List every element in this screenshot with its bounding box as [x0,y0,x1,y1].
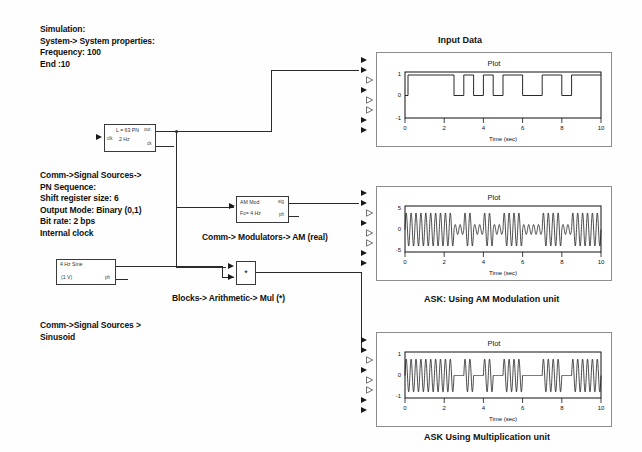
multiplier-symbol: * [237,262,255,284]
diagram-canvas: Simulation: System-> System properties: … [0,0,642,452]
wire-pn-to-mul [176,267,226,268]
wire-sine-out [116,266,222,267]
wire-pn-ck-stub [156,146,174,147]
pn-out-port-label: out [144,127,150,132]
block-am-modulator[interactable]: AM Mod Fc= 4 Hz sig ph [236,196,289,223]
wire-pn-up [271,70,272,132]
scope1-plot-title: Plot [377,59,611,68]
scope3-plot-title: Plot [377,339,611,348]
svg-text:6: 6 [521,125,525,131]
wire-mul-out [256,272,361,273]
svg-text:2: 2 [443,405,447,411]
scope-ask-am[interactable]: Plot 5 0 -5 0 2 4 6 8 10 Time (sec) [376,186,612,281]
scope3-port-4-icon [361,367,367,373]
pn-clk-input-arrow-icon [96,134,102,140]
svg-text:10: 10 [598,405,605,411]
scope1-port-5-icon [361,97,366,103]
scope1-port-7-icon [361,117,367,123]
svg-text:10: 10 [598,259,605,265]
scope1-port-1-icon [361,57,367,63]
block-pn-sequence[interactable]: L = 63 PN 2 Hz clk out ck [104,124,156,152]
svg-text:4: 4 [482,405,486,411]
svg-text:8: 8 [560,259,564,265]
scope3-port-7-icon [361,397,367,403]
scope3-caption: ASK Using Multiplication unit [424,432,550,442]
scope-ask-multiplication[interactable]: Plot 1 0 -1 0 2 4 6 8 10 Time (sec) [376,332,612,427]
svg-text:0: 0 [398,92,402,98]
svg-text:0: 0 [403,405,407,411]
block-sine-source[interactable]: 4 Hz Sine (1 V) ph [56,259,116,285]
block-multiplier[interactable]: * [236,261,256,285]
svg-text:2: 2 [443,125,447,131]
scope1-port-8-icon [361,127,367,133]
scope1-port-6-icon [361,107,366,113]
svg-text:1: 1 [398,351,402,357]
scope2-plot-title: Plot [377,193,611,202]
wire-am-ph-stub [289,216,299,217]
pn-block-subtitle: 2 Hz [119,136,130,142]
svg-text:5: 5 [398,205,402,211]
scope3-port-8-icon [361,407,367,413]
scope2-port-1-icon [361,190,367,196]
note-simulation-settings: Simulation: System-> System properties: … [40,24,155,70]
svg-text:Time (sec): Time (sec) [489,270,517,276]
am-input-arrow-icon [229,203,235,209]
scope1-port-3-icon [361,77,366,83]
svg-text:-1: -1 [396,115,402,121]
scope2-port-7-icon [361,250,367,256]
svg-text:8: 8 [560,405,564,411]
scope2-port-6-icon [361,240,366,246]
note-multiplier: Blocks-> Arithmetic-> Mul (*) [172,293,285,305]
svg-text:Time (sec): Time (sec) [489,416,517,422]
svg-text:-1: -1 [396,393,402,399]
scope2-port-2-icon [361,200,367,206]
svg-text:Time (sec): Time (sec) [489,136,517,142]
am-sig-port-label: sig [278,199,284,204]
svg-text:4: 4 [482,125,486,131]
wire-sine-down [222,266,223,277]
scope2-port-3-icon [361,210,366,216]
svg-text:8: 8 [560,125,564,131]
scope3-port-1-icon [361,337,367,343]
svg-text:0: 0 [403,125,407,131]
note-am-modulator: Comm-> Modulators-> AM (real) [202,232,328,244]
pn-ck-port-label: ck [147,141,152,146]
note-pn-sequence: Comm->Signal Sources-> PN Sequence: Shif… [40,170,141,239]
wire-am-to-scope2 [289,203,359,204]
mul-input1-arrow-icon [228,263,234,269]
note-sinusoid: Comm->Signal Sources > Sinusoid [40,320,141,343]
svg-text:-5: -5 [396,247,402,253]
scope3-port-5-icon [361,377,366,383]
wire-pn-out-right [156,131,271,132]
sine-block-title: 4 Hz Sine [60,261,83,267]
svg-text:2: 2 [443,259,447,265]
scope3-port-6-icon [361,387,366,393]
am-block-title: AM Mod [240,199,259,205]
am-block-subtitle: Fc= 4 Hz [240,210,261,216]
svg-text:1: 1 [398,71,402,77]
svg-text:0: 0 [398,226,402,232]
pn-clk-port-label: clk [107,136,113,141]
am-ph-port-label: ph [279,212,284,217]
wire-pn-to-am [176,207,234,208]
svg-text:6: 6 [521,405,525,411]
pn-block-title: L = 63 PN [116,127,139,133]
scope3-port-2-icon [361,347,367,353]
mul-input2-arrow-icon [228,274,234,280]
scope1-caption: Input Data [438,35,482,45]
wire-pn-down-am [176,131,177,207]
scope1-port-2-icon [361,67,367,73]
sine-block-subtitle: (1 V) [61,274,72,280]
wire-sine-ph-stub [116,279,128,280]
scope2-port-5-icon [361,230,366,236]
scope-input-data[interactable]: Plot 1 0 -1 0 2 4 6 8 10 Time (sec) [376,52,612,147]
svg-text:4: 4 [482,259,486,265]
scope2-caption: ASK: Using AM Modulation unit [424,294,559,304]
wire-pn-down-mul [176,207,177,267]
scope2-port-4-icon [361,220,367,226]
sine-ph-port-label: ph [105,275,110,280]
svg-text:0: 0 [398,372,402,378]
svg-text:10: 10 [598,125,605,131]
scope3-port-3-icon [361,357,366,363]
scope1-port-4-icon [361,87,367,93]
